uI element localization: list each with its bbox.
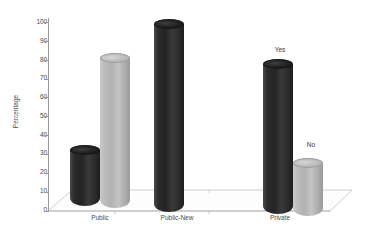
bar-private-no[interactable] xyxy=(293,158,323,216)
y-tick-label-40: 40 xyxy=(17,132,47,139)
cylinder-body xyxy=(293,163,323,216)
y-tick-mark-10 xyxy=(44,192,48,193)
y-tick-label-10: 10 xyxy=(17,188,47,195)
y-tick-label-30: 30 xyxy=(17,150,47,157)
y-tick-label-50: 50 xyxy=(17,113,47,120)
y-tick-mark-20 xyxy=(44,173,48,174)
y-tick-mark-70 xyxy=(44,79,48,80)
category-label-public-new: Public-New xyxy=(161,214,194,221)
y-axis-line xyxy=(48,18,49,212)
y-tick-mark-40 xyxy=(44,135,48,136)
bar-public-new-yes[interactable] xyxy=(154,19,184,212)
chart-3d-cylinder-bar: Percentage 100 90 80 70 60 50 40 30 20 1… xyxy=(0,0,372,234)
cylinder-body xyxy=(70,150,100,206)
data-label-no: No xyxy=(307,141,315,148)
y-tick-mark-50 xyxy=(44,116,48,117)
y-tick-label-0: 0 xyxy=(17,207,47,214)
y-tick-label-80: 80 xyxy=(17,57,47,64)
y-tick-label-20: 20 xyxy=(17,169,47,176)
data-label-yes: Yes xyxy=(275,46,286,53)
cylinder-top-ellipse xyxy=(154,19,184,29)
y-tick-mark-0 xyxy=(44,211,48,212)
cylinder-top-ellipse xyxy=(293,158,323,168)
y-tick-label-100: 100 xyxy=(17,19,47,26)
y-tick-mark-90 xyxy=(44,41,48,42)
cylinder-body xyxy=(263,64,293,214)
bar-public-no[interactable] xyxy=(100,53,130,208)
y-tick-label-60: 60 xyxy=(17,94,47,101)
category-label-private: Private xyxy=(270,214,290,221)
bar-public-yes[interactable] xyxy=(70,145,100,206)
y-tick-mark-30 xyxy=(44,154,48,155)
plot-area: Percentage 100 90 80 70 60 50 40 30 20 1… xyxy=(0,0,372,234)
cylinder-top-ellipse xyxy=(263,59,293,69)
category-label-public: Public xyxy=(91,214,109,221)
y-tick-label-70: 70 xyxy=(17,75,47,82)
cylinder-body xyxy=(100,58,130,208)
cylinder-body xyxy=(154,24,184,212)
y-tick-mark-100 xyxy=(44,22,48,23)
cylinder-top-ellipse xyxy=(70,145,100,155)
y-tick-label-90: 90 xyxy=(17,38,47,45)
cylinder-top-ellipse xyxy=(100,53,130,63)
y-tick-mark-80 xyxy=(44,60,48,61)
bar-private-yes[interactable] xyxy=(263,59,293,214)
y-tick-mark-60 xyxy=(44,97,48,98)
